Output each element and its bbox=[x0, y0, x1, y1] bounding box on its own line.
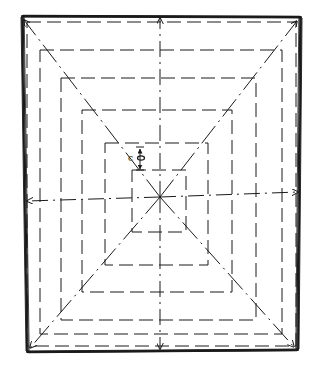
nested-dashed-rectangles bbox=[27, 22, 296, 346]
dashed-rectangle bbox=[40, 50, 282, 334]
frame-stroke bbox=[21, 17, 302, 351]
dimension-label: c bbox=[128, 153, 133, 163]
dashed-rectangle bbox=[132, 170, 186, 232]
arrow-left bbox=[27, 197, 160, 201]
dimension-glyph bbox=[138, 156, 145, 160]
diagonal-bottom-right bbox=[160, 197, 294, 347]
center-point bbox=[159, 196, 161, 198]
frame-stroke bbox=[22, 16, 301, 352]
outer-frame bbox=[21, 15, 302, 353]
dashed-rectangle bbox=[105, 143, 208, 265]
frame-stroke bbox=[24, 17, 299, 352]
diagonal-bottom-left bbox=[30, 197, 160, 348]
arrow-right bbox=[160, 192, 298, 197]
diagram-canvas: c bbox=[0, 0, 321, 387]
axis-arrows bbox=[27, 18, 298, 349]
diagonal-top-right bbox=[160, 21, 297, 197]
frame-stroke bbox=[23, 15, 300, 353]
